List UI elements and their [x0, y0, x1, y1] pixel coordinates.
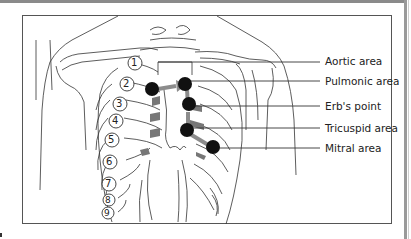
- rib-number-3: 3: [116, 98, 122, 110]
- neck-vertebrae: [140, 25, 200, 50]
- label-erbs-point: Erb's point: [325, 100, 381, 112]
- marker-tricuspid: [180, 123, 194, 137]
- marker-aortic: [145, 82, 159, 96]
- rib-number-4: 4: [112, 115, 118, 127]
- rib-number-2: 2: [123, 78, 129, 90]
- rib-number-1: 1: [131, 57, 137, 69]
- label-mitral-area: Mitral area: [325, 142, 382, 154]
- auscultation-path-arrows: [152, 80, 210, 146]
- label-pulmonic-area: Pulmonic area: [325, 75, 399, 87]
- rib-number-8: 8: [105, 194, 111, 206]
- marker-mitral: [206, 140, 220, 154]
- chest-diagram: [0, 0, 411, 239]
- rib-number-5: 5: [108, 134, 114, 146]
- rib-number-7: 7: [105, 178, 111, 190]
- marker-erbs: [182, 97, 196, 111]
- rib-number-6: 6: [106, 156, 112, 168]
- rib-number-9: 9: [104, 207, 110, 219]
- marker-pulmonic: [178, 77, 192, 91]
- label-aortic-area: Aortic area: [325, 55, 382, 67]
- label-tricuspid-area: Tricuspid area: [325, 122, 398, 134]
